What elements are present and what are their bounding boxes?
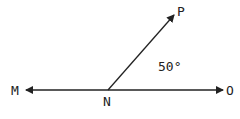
ray-np <box>108 15 174 90</box>
angle-diagram: M N O P 50° <box>0 0 240 119</box>
angle-label: 50° <box>158 59 181 74</box>
label-n: N <box>103 94 111 109</box>
label-o: O <box>226 83 234 98</box>
label-p: P <box>177 4 185 19</box>
label-m: M <box>11 83 19 98</box>
